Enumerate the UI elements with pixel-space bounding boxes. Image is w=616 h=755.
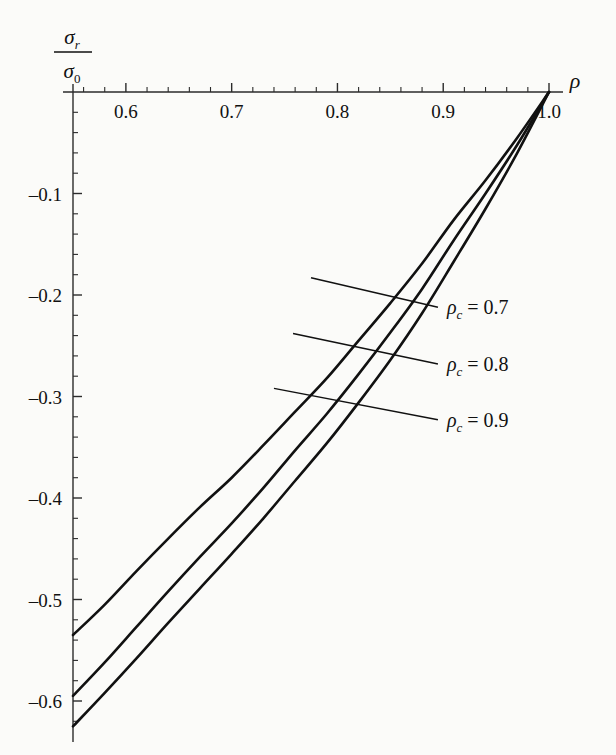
x-tick-label: 0.7 (220, 101, 244, 122)
x-axis-tick-labels: 0.60.70.80.91.0 (114, 101, 561, 122)
y-tick-label: –0.4 (28, 488, 63, 509)
x-tick-label: 0.9 (431, 101, 455, 122)
y-tick-label: –0.2 (28, 285, 62, 306)
x-axis-ticks (84, 83, 549, 92)
x-tick-label: 0.6 (114, 101, 138, 122)
y-axis-title: σr σ0 (54, 25, 92, 86)
series-annotation-label: ρc = 0.8 (446, 353, 509, 379)
leader-line (274, 388, 438, 419)
y-tick-label: –0.3 (28, 387, 62, 408)
y-axis-title-denominator: σ0 (64, 59, 81, 86)
y-tick-label: –0.6 (28, 691, 62, 712)
leader-line (293, 334, 438, 364)
x-tick-label: 0.8 (326, 101, 350, 122)
series-annotations-group: ρc = 0.7ρc = 0.8ρc = 0.9 (446, 296, 509, 435)
series-annotation-label: ρc = 0.9 (446, 409, 509, 435)
figure-canvas: 0.60.70.80.91.0 –0.1–0.2–0.3–0.4–0.5–0.6… (0, 0, 616, 755)
y-axis-title-numerator: σr (64, 25, 80, 52)
series-annotation-label: ρc = 0.7 (446, 296, 509, 322)
x-axis-title: ρ (569, 68, 581, 93)
stress-plot: 0.60.70.80.91.0 –0.1–0.2–0.3–0.4–0.5–0.6… (0, 0, 616, 755)
y-tick-label: –0.5 (28, 590, 62, 611)
y-tick-label: –0.1 (28, 184, 62, 205)
y-axis-tick-labels: –0.1–0.2–0.3–0.4–0.5–0.6 (28, 184, 63, 713)
